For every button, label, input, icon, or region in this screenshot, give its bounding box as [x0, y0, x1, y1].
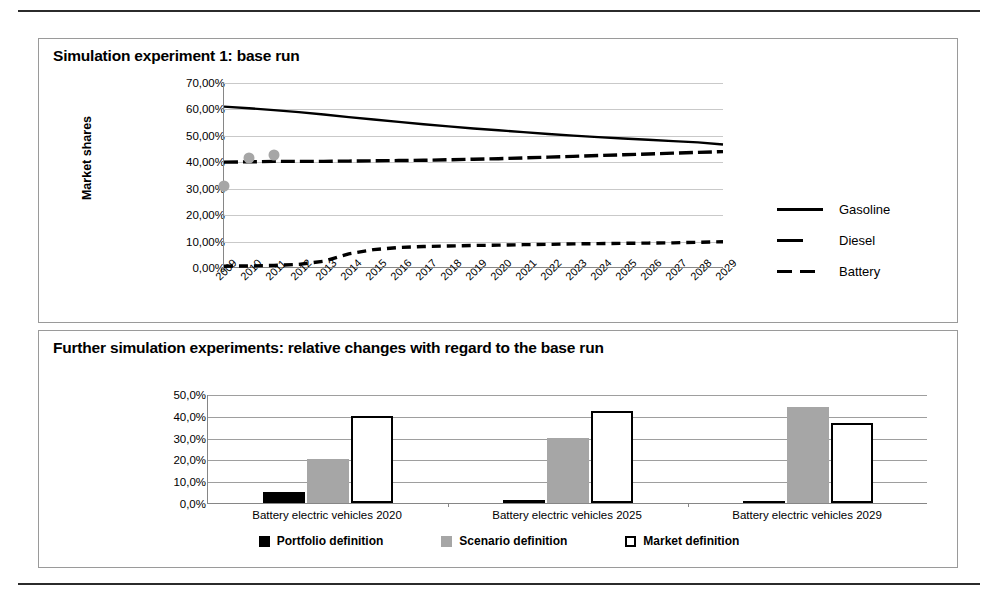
chart2-legend: Portfolio definitionScenario definitionM… — [39, 534, 959, 548]
chart1-legend-item: Gasoline — [777, 194, 890, 225]
chart1-legend-item: Battery — [777, 256, 890, 287]
chart2-bar — [351, 416, 393, 503]
chart2-legend-item: Market definition — [625, 534, 739, 548]
chart2-bar — [503, 500, 545, 503]
chart2-bar — [263, 492, 305, 503]
chart2-legend-label: Market definition — [643, 534, 739, 548]
chart2-y-tick: 20,0% — [173, 454, 206, 466]
chart-panel-relative-changes: Further simulation experiments: relative… — [38, 330, 958, 568]
chart1-series-group — [224, 83, 723, 267]
chart1-y-tick: 60,00% — [186, 103, 225, 115]
chart2-axis-tick — [688, 503, 689, 507]
chart2-category-label: Battery electric vehicles 2020 — [252, 509, 402, 521]
chart2-legend-item: Scenario definition — [441, 534, 567, 548]
chart2-legend-label: Portfolio definition — [277, 534, 384, 548]
chart2-category-label: Battery electric vehicles 2025 — [492, 509, 642, 521]
chart2-y-tick: 30,0% — [173, 433, 206, 445]
chart2-bar — [787, 407, 829, 503]
chart2-bar — [307, 459, 349, 503]
chart2-bar — [743, 501, 785, 503]
chart2-legend-swatch — [625, 536, 636, 547]
top-divider-rule — [18, 10, 980, 12]
chart2-y-tick: 0,0% — [180, 498, 206, 510]
chart2-category-label: Battery electric vehicles 2029 — [732, 509, 882, 521]
chart2-axis-tick — [448, 503, 449, 507]
chart2-bar — [547, 438, 589, 503]
bottom-divider-rule — [18, 583, 980, 585]
chart1-y-tick: 40,00% — [186, 156, 225, 168]
chart1-scatter-point — [269, 150, 280, 161]
chart2-title: Further simulation experiments: relative… — [53, 339, 604, 357]
chart1-scatter-point — [219, 181, 230, 192]
chart1-series-diesel — [224, 152, 723, 163]
chart1-legend-swatch — [777, 270, 829, 273]
chart2-y-tick: 40,0% — [173, 411, 206, 423]
chart2-bar — [591, 411, 633, 503]
chart2-legend-item: Portfolio definition — [259, 534, 384, 548]
chart2-legend-swatch — [259, 536, 270, 547]
chart1-y-tick: 50,00% — [186, 130, 225, 142]
chart2-plot-area — [207, 395, 927, 504]
chart1-legend-swatch — [777, 239, 829, 242]
chart1-legend: GasolineDieselBattery — [777, 194, 890, 287]
chart1-legend-label: Battery — [839, 264, 880, 279]
chart1-legend-label: Diesel — [839, 233, 875, 248]
chart1-x-tick-labels: 2009201020112012201320142015201620172018… — [223, 274, 723, 320]
chart-panel-base-run: Simulation experiment 1: base run Market… — [38, 38, 958, 323]
chart1-y-axis-label: Market shares — [80, 98, 94, 218]
chart2-legend-swatch — [441, 536, 452, 547]
chart2-y-tick: 10,0% — [173, 476, 206, 488]
chart2-bar — [831, 423, 873, 503]
chart2-legend-label: Scenario definition — [459, 534, 567, 548]
chart1-y-tick: 70,00% — [186, 77, 225, 89]
chart1-legend-item: Diesel — [777, 225, 890, 256]
chart1-x-tick: 2009 — [213, 257, 239, 283]
chart1-y-tick: 20,00% — [186, 209, 225, 221]
chart1-scatter-point — [244, 153, 255, 164]
chart1-title: Simulation experiment 1: base run — [53, 47, 300, 65]
chart1-legend-swatch — [777, 208, 829, 211]
chart1-plot-area — [223, 83, 723, 268]
chart1-y-tick: 10,00% — [186, 236, 225, 248]
chart1-legend-label: Gasoline — [839, 202, 890, 217]
figure-page: Simulation experiment 1: base run Market… — [0, 0, 998, 599]
chart2-y-tick: 50,0% — [173, 389, 206, 401]
chart2-gridline — [208, 395, 927, 396]
chart1-series-gasoline — [224, 107, 723, 145]
